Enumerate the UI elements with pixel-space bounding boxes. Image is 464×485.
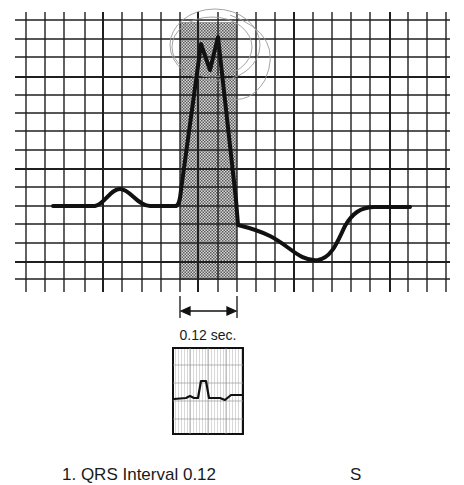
interval-label: 0.12 sec. (168, 327, 248, 343)
figure-caption: 1. QRS Interval 0.12 (62, 465, 216, 485)
figure-caption-tail: S (350, 465, 361, 485)
interval-bracket (180, 296, 237, 318)
inset-ecg-strip (173, 348, 243, 434)
